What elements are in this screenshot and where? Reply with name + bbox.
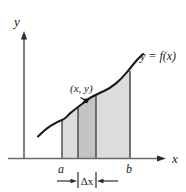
x-axis-label: x — [171, 151, 178, 166]
point-coordinates-label: (x, y) — [70, 82, 93, 95]
delta-x-label: Δx — [81, 175, 94, 187]
figure-container: y x y = f(x) (x, y) a b Δx — [0, 0, 186, 192]
delta-x-arrow-right-head — [97, 179, 104, 184]
area-under-curve-figure: y x y = f(x) (x, y) a b Δx — [0, 0, 186, 192]
curve-equation-label: y = f(x) — [139, 49, 176, 63]
x-axis-arrowhead — [157, 156, 166, 162]
delta-x-arrow-left-head — [71, 179, 78, 184]
lower-limit-label-a: a — [58, 162, 64, 176]
y-axis-arrowhead — [21, 31, 27, 40]
y-axis-label: y — [12, 14, 20, 29]
upper-limit-label-b: b — [126, 162, 132, 176]
